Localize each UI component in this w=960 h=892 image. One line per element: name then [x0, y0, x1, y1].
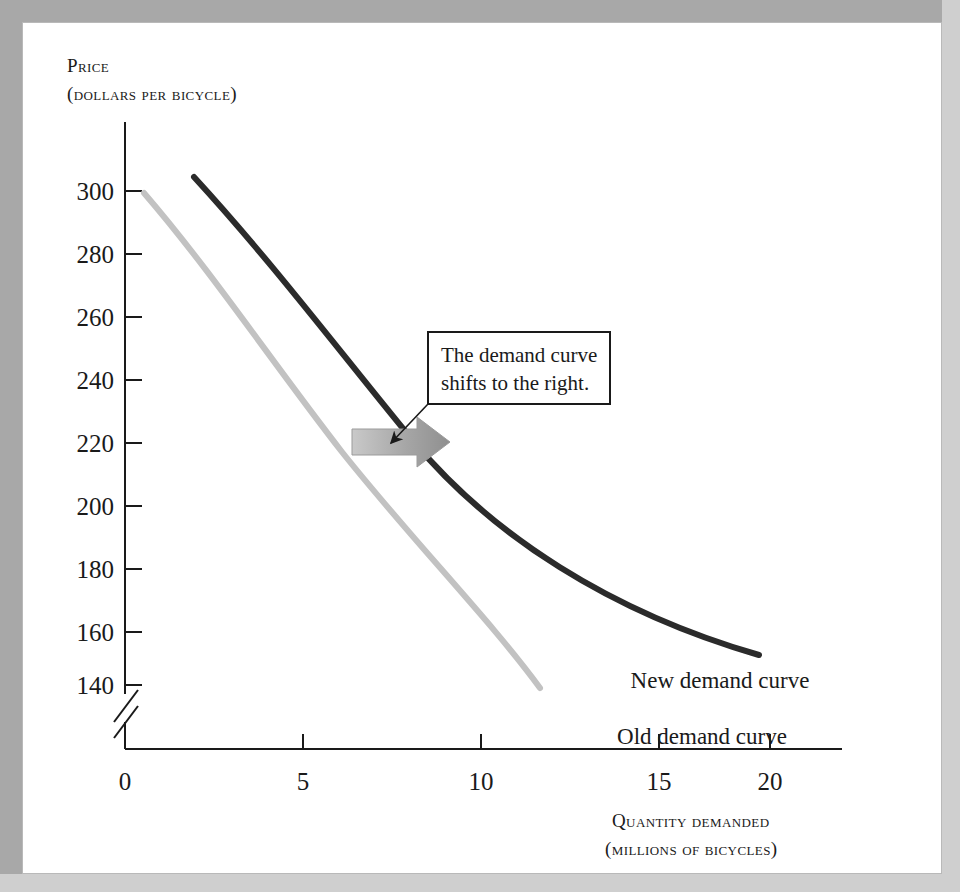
old-demand-curve-label: Old demand curve — [617, 724, 787, 749]
frame-top-edge — [0, 0, 960, 22]
y-tick-label-300: 300 — [77, 178, 115, 205]
new-demand-curve-label: New demand curve — [631, 668, 810, 693]
y-axis-title-line2: (dollars per bicycle) — [67, 83, 237, 105]
y-tick-label-140: 140 — [77, 672, 115, 699]
annotation-text-line2: shifts to the right. — [441, 371, 589, 395]
x-axis-title-line1: Quantity demanded — [612, 810, 769, 831]
x-tick-label-10: 10 — [469, 768, 494, 795]
y-tick-label-240: 240 — [77, 367, 115, 394]
x-axis-title-line2: (millions of bicycles) — [605, 838, 778, 860]
new-demand-curve — [194, 177, 759, 655]
x-tick-label-0: 0 — [119, 768, 132, 795]
y-axis-title-line1: Price — [67, 55, 109, 76]
y-axis-break-mark-1 — [114, 690, 138, 722]
y-tick-label-280: 280 — [77, 241, 115, 268]
y-tick-label-260: 260 — [77, 304, 115, 331]
x-tick-label-5: 5 — [297, 768, 310, 795]
x-tick-label-15: 15 — [647, 768, 672, 795]
frame-right-edge — [942, 0, 960, 892]
frame-left-edge — [0, 0, 22, 892]
y-axis-ticks: 300 280 260 240 220 200 180 160 140 — [77, 178, 143, 699]
y-tick-label-180: 180 — [77, 556, 115, 583]
old-demand-curve — [144, 193, 540, 688]
y-tick-label-200: 200 — [77, 493, 115, 520]
y-tick-label-220: 220 — [77, 430, 115, 457]
x-tick-label-20: 20 — [758, 768, 783, 795]
figure-container: Price (dollars per bicycle) 300 280 260 … — [0, 0, 960, 892]
frame-bottom-edge — [0, 874, 960, 892]
demand-curve-chart: Price (dollars per bicycle) 300 280 260 … — [22, 22, 942, 874]
y-tick-label-160: 160 — [77, 619, 115, 646]
annotation-text-line1: The demand curve — [441, 343, 597, 367]
